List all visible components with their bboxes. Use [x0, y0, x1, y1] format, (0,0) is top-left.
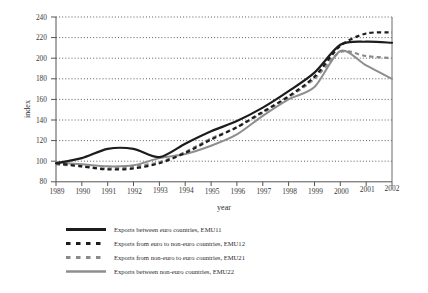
series-line-emu21 [56, 51, 392, 168]
ytick-label-180: 180 [36, 74, 47, 83]
legend-label-emu12: Exports from euro to non-euro countries,… [114, 240, 245, 247]
xtick-label-2000: 2000 [334, 187, 349, 196]
legend-label-emu11: Exports between euro countries, EMU11 [114, 226, 222, 233]
series-line-emu11 [56, 42, 392, 164]
chart-figure: 240 220 200 180 160 140 120 100 80 [0, 0, 428, 293]
x-axis-title: year [217, 203, 231, 212]
xtick-label-1999: 1999 [308, 187, 323, 196]
ytick-label-220: 220 [36, 33, 47, 42]
xtick-label-1994: 1994 [179, 186, 194, 195]
y-axis-ticks [51, 17, 56, 182]
y-axis-tick-labels: 240 220 200 180 160 140 120 100 80 [36, 13, 47, 187]
xtick-label-1991: 1991 [101, 187, 116, 196]
ytick-label-100: 100 [36, 157, 47, 166]
series-lines [56, 32, 392, 169]
xtick-label-1990: 1990 [75, 187, 90, 196]
ytick-label-80: 80 [40, 177, 48, 186]
y-axis-title: index [23, 100, 32, 118]
xtick-label-1996: 1996 [231, 187, 246, 196]
ytick-label-140: 140 [36, 116, 47, 125]
chart-legend: Exports between euro countries, EMU11 Ex… [66, 226, 245, 275]
chart-svg: 240 220 200 180 160 140 120 100 80 [0, 0, 428, 293]
x-axis-tick-labels: 1989 1990 1991 1992 1993 1994 1995 1996 … [50, 184, 400, 196]
xtick-label-1995: 1995 [205, 187, 220, 196]
xtick-label-1998: 1998 [282, 187, 297, 196]
xtick-label-2002: 2002 [385, 184, 400, 193]
xtick-label-1997: 1997 [256, 187, 271, 196]
legend-label-emu22: Exports between non-euro countries, EMU2… [114, 268, 234, 275]
ytick-label-120: 120 [36, 136, 47, 145]
ytick-label-160: 160 [36, 95, 47, 104]
xtick-label-2001: 2001 [360, 185, 375, 194]
xtick-label-1989: 1989 [50, 187, 65, 196]
xtick-label-1992: 1992 [127, 187, 142, 196]
ytick-label-240: 240 [36, 13, 47, 22]
legend-label-emu21: Exports from non-euro to euro countries,… [114, 254, 245, 261]
ytick-label-200: 200 [36, 54, 47, 63]
x-axis-ticks [56, 182, 392, 186]
xtick-label-1993: 1993 [153, 186, 168, 195]
